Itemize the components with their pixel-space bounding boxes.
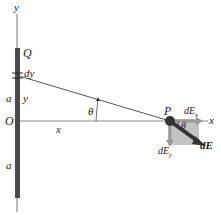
lower-a-label: a xyxy=(6,160,12,171)
theta-right-label: θ xyxy=(181,121,186,131)
dy-label: dy xyxy=(24,68,34,79)
x-dist-label: x xyxy=(56,124,61,135)
dEy-label: dEy xyxy=(158,146,172,159)
theta-left-label: θ xyxy=(88,106,93,117)
x-axis-label: x xyxy=(209,115,214,126)
r-line xyxy=(19,76,170,121)
charge-label: Q xyxy=(23,47,32,59)
charged-rod xyxy=(15,48,20,198)
origin-label: O xyxy=(5,115,14,127)
dE-label: dE xyxy=(200,140,213,151)
y-axis-label: y xyxy=(14,2,19,13)
y-coord-label: y xyxy=(23,93,28,104)
dEx-label: dEx xyxy=(184,106,198,119)
upper-a-label: a xyxy=(6,93,12,104)
point-P-label: P xyxy=(164,105,171,117)
theta-arc-left xyxy=(96,99,98,121)
